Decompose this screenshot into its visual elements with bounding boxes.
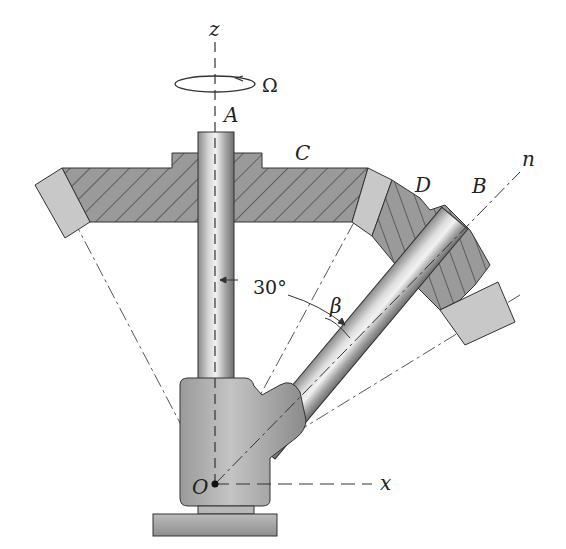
gear-D-label: D (414, 173, 431, 197)
n-axis-label: n (522, 147, 535, 171)
hub-block (153, 378, 306, 536)
origin-O-label: O (192, 475, 208, 499)
angle-30-label: 30° (253, 276, 287, 298)
origin-point (212, 481, 219, 488)
angle-beta-label: β (329, 294, 342, 318)
gear-C-label: C (295, 141, 310, 165)
gear-D (372, 180, 515, 345)
x-axis-label: x (380, 471, 391, 495)
point-A-label: A (222, 103, 238, 127)
omega-label: Ω (262, 74, 278, 96)
bevel-gear-diagram: z Ω A C D B n 30° β O x (0, 0, 566, 549)
z-axis-label: z (208, 17, 220, 41)
point-B-label: B (471, 174, 487, 198)
